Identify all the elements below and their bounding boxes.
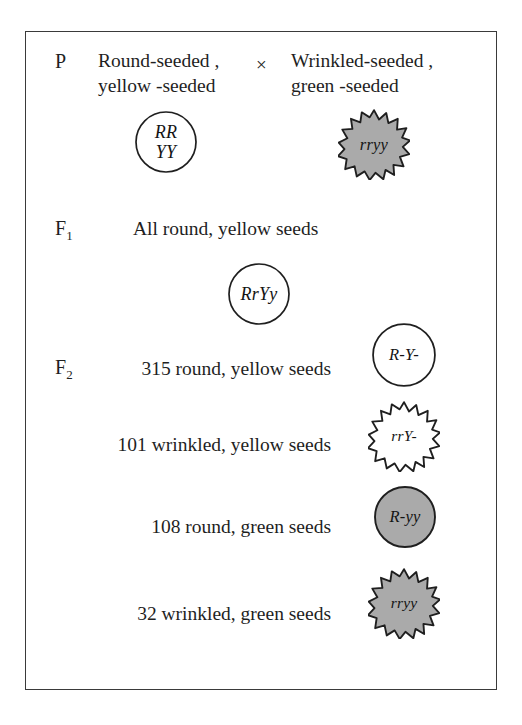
generation-label-f1: F1 <box>55 218 73 238</box>
genotype-shape-f2-wrinkled-yellow: rrY- <box>368 400 440 472</box>
genotype-shape-f2-round-green: R-yy <box>373 485 437 549</box>
genotype-shape-parent1: RR YY <box>134 110 198 174</box>
f1-phenotype-text: All round, yellow seeds <box>133 216 318 241</box>
f2-genotype-label: rrY- <box>391 426 417 446</box>
f2-row-text: 108 round, green seeds <box>66 514 331 539</box>
f2-genotype-label: R-Y- <box>389 345 419 365</box>
genotype-shape-parent2: rryy <box>338 108 410 180</box>
f2-row-text: 101 wrinkled, yellow seeds <box>66 432 331 457</box>
f2-row-text: 315 round, yellow seeds <box>66 356 331 381</box>
parent2-phenotype-text: Wrinkled-seeded , green -seeded <box>291 48 433 98</box>
generation-label-p: P <box>55 51 66 71</box>
parent1-phenotype-text: Round-seeded , yellow -seeded <box>98 48 219 98</box>
f1-label-subscript: 1 <box>66 228 73 243</box>
f1-label-text: F <box>55 217 66 239</box>
f2-genotype-label: R-yy <box>389 507 420 527</box>
parent2-genotype-label: rryy <box>360 135 388 155</box>
genotype-shape-f2-wrinkled-green: rryy <box>368 567 440 639</box>
f2-genotype-label: rryy <box>391 593 418 613</box>
cross-symbol: × <box>256 54 267 76</box>
parent1-genotype-label: RR YY <box>155 122 177 162</box>
genotype-shape-f2-round-yellow: R-Y- <box>371 322 437 388</box>
f1-genotype-label: RrYy <box>241 284 278 304</box>
dihybrid-cross-figure: P Round-seeded , yellow -seeded × Wrinkl… <box>25 31 497 690</box>
genotype-shape-f1: RrYy <box>227 262 291 326</box>
f2-row-text: 32 wrinkled, green seeds <box>66 601 331 626</box>
f2-label-text: F <box>55 356 66 378</box>
